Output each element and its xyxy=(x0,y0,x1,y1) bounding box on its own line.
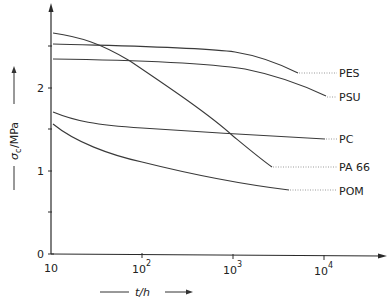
x-axis xyxy=(51,254,382,256)
svg-text:10: 10 xyxy=(223,264,237,277)
svg-text:c: c xyxy=(14,149,23,153)
svg-text:2: 2 xyxy=(146,259,151,268)
x-tick-1000: 10 3 xyxy=(223,260,242,277)
label-pc: PC xyxy=(339,133,354,146)
svg-text:10: 10 xyxy=(314,265,328,278)
x-ticks xyxy=(142,253,324,260)
svg-text:4: 4 xyxy=(328,261,333,270)
curve-pom xyxy=(53,124,289,190)
x-axis-label: t/h xyxy=(100,286,193,299)
svg-text:t/h: t/h xyxy=(135,286,150,299)
x-tick-10: 10 xyxy=(44,262,58,275)
curve-pc xyxy=(53,112,325,139)
x-axis-arrow-icon xyxy=(378,254,387,259)
svg-text:3: 3 xyxy=(237,260,242,269)
y-tick-0: 0 xyxy=(37,248,44,261)
y-axis-arrow-icon xyxy=(49,3,54,12)
label-pes: PES xyxy=(339,67,360,80)
label-pom: POM xyxy=(339,185,364,198)
svg-text:/MPa: /MPa xyxy=(8,122,21,148)
y-axis-label: σ c /MPa xyxy=(8,66,23,190)
y-tick-2: 2 xyxy=(37,82,44,95)
x-tick-10000: 10 4 xyxy=(314,261,333,278)
curve-psu xyxy=(53,59,326,96)
chart: 0 1 2 10 10 2 10 3 10 4 t/h σ c /MPa xyxy=(0,0,388,300)
svg-text:10: 10 xyxy=(132,263,146,276)
label-pa66: PA 66 xyxy=(339,161,370,174)
label-psu: PSU xyxy=(339,91,361,104)
x-tick-100: 10 2 xyxy=(132,259,151,276)
y-tick-1: 1 xyxy=(37,165,44,178)
curve-pes xyxy=(53,44,298,73)
